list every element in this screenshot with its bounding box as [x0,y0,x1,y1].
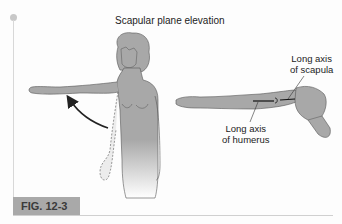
woman-figure [29,33,160,198]
bottom-divider [13,215,333,216]
figure-caption-badge: FIG. 12-3 [13,197,80,215]
figure-illustration [0,0,342,224]
label-scapula-axis: Long axis of scapula [290,53,333,75]
label-humerus-axis: Long axis of humerus [222,123,270,145]
